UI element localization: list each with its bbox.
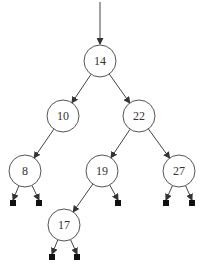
- tree-edge: [111, 129, 130, 157]
- nil-edge: [71, 240, 77, 254]
- nil-edge: [13, 186, 19, 200]
- binary-tree-diagram: 1410228192717: [0, 0, 207, 271]
- tree-edge: [148, 129, 169, 158]
- node-key-label: 22: [133, 109, 145, 123]
- nil-leaf-square: [115, 200, 121, 206]
- tree-node-27: 27: [163, 155, 195, 187]
- tree-node-10: 10: [47, 100, 79, 132]
- node-key-label: 8: [22, 164, 28, 178]
- nil-edge: [110, 185, 118, 200]
- nil-leaf-square: [163, 200, 169, 206]
- edges: [13, 2, 192, 254]
- tree-node-19: 19: [86, 155, 118, 187]
- tree-node-17: 17: [48, 209, 80, 241]
- tree-node-22: 22: [123, 100, 155, 132]
- nil-leaves: [10, 200, 195, 260]
- nil-edge: [186, 186, 192, 200]
- nil-leaf-square: [36, 200, 42, 206]
- node-key-label: 27: [173, 164, 185, 178]
- nil-leaf-square: [10, 200, 16, 206]
- nil-leaf-square: [74, 254, 80, 260]
- tree-edge: [109, 74, 129, 103]
- tree-node-8: 8: [9, 155, 41, 187]
- nil-edge: [166, 186, 172, 200]
- tree-edge: [34, 129, 54, 158]
- nil-edge: [32, 185, 39, 200]
- node-key-label: 19: [96, 164, 108, 178]
- node-key-label: 10: [57, 109, 69, 123]
- nil-leaf-square: [189, 200, 195, 206]
- nil-leaf-square: [49, 254, 55, 260]
- node-key-label: 17: [58, 218, 70, 232]
- node-key-label: 14: [94, 54, 106, 68]
- tree-edge: [73, 184, 93, 212]
- tree-nodes: 1410228192717: [9, 45, 195, 241]
- nil-edge: [52, 240, 58, 254]
- tree-node-14: 14: [84, 45, 116, 77]
- tree-edge: [72, 74, 91, 102]
